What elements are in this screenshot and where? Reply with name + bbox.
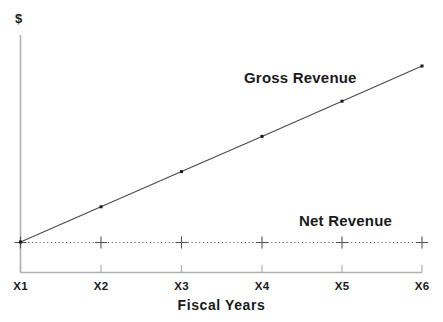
x-tick-label-x6: X6 [415, 280, 429, 292]
series-label-gross-revenue: Gross Revenue [244, 69, 357, 86]
series-label-net-revenue: Net Revenue [299, 212, 392, 229]
revenue-line-chart: $ Fiscal Years X1 X2 X3 X4 X5 X6 Gross R… [0, 0, 443, 322]
series-markers-net-revenue [15, 237, 429, 249]
x-tick-label-x3: X3 [174, 280, 188, 292]
plot-area [0, 0, 443, 322]
y-axis-title: $ [15, 11, 23, 26]
x-tick-label-x1: X1 [13, 280, 27, 292]
x-tick-label-x4: X4 [255, 280, 269, 292]
x-tick-label-x5: X5 [335, 280, 349, 292]
x-axis-title: Fiscal Years [0, 297, 443, 313]
x-tick-label-x2: X2 [94, 280, 108, 292]
x-axis-ticks [21, 265, 423, 273]
